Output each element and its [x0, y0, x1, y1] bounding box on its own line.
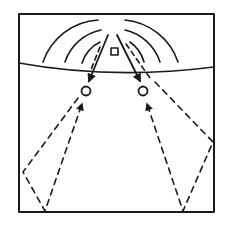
wavefronts-right: [125, 20, 178, 62]
curved-divider: [19, 63, 214, 73]
wavefront-arc-icon: [43, 20, 98, 62]
room-frame: [19, 14, 214, 212]
sound-source-icon: [111, 48, 118, 55]
wavefronts-left: [43, 20, 101, 63]
reflected-ray-right: [147, 82, 213, 211]
wavefront-arc-icon: [125, 20, 178, 62]
right-receiver-icon: [139, 87, 148, 96]
reflected-ray-left: [23, 98, 82, 211]
acoustic-ray-diagram: [0, 0, 227, 226]
left-receiver-icon: [82, 87, 91, 96]
